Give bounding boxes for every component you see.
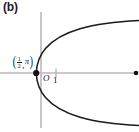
parabola-upper-branch [36, 21, 139, 73]
vertex-point-marker [33, 70, 39, 76]
panel-label: (b) [3, 1, 18, 13]
origin-label: O [43, 74, 50, 83]
fraction-denominator: 2 [17, 63, 22, 69]
figure-container: (b) O 1 ( 1 2 , π ) [0, 0, 139, 132]
coordinate-comma: , [22, 61, 24, 70]
coordinate-open-paren: ( [13, 55, 16, 69]
coordinate-fraction: 1 2 [17, 56, 22, 69]
coordinate-close-paren: ) [30, 55, 33, 69]
parabola-lower-branch [36, 73, 139, 125]
axis-endpoint-marker [134, 71, 139, 76]
tick-label-one: 1 [53, 76, 58, 85]
vertex-coordinate-label: ( 1 2 , π ) [12, 55, 34, 69]
coordinate-theta-pi: π [25, 58, 29, 66]
